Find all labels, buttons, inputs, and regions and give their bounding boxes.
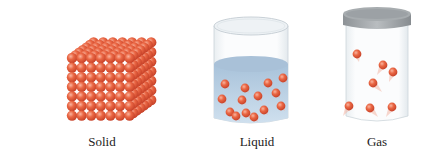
particle xyxy=(86,101,96,111)
particle xyxy=(96,72,106,82)
particle xyxy=(67,72,77,82)
particle xyxy=(67,62,77,72)
particle xyxy=(86,62,96,72)
particle xyxy=(86,91,96,101)
particle xyxy=(242,109,251,118)
particle xyxy=(124,82,134,92)
particle xyxy=(105,91,115,101)
particle xyxy=(232,112,241,121)
particle xyxy=(124,72,134,82)
particle xyxy=(115,82,125,92)
particle xyxy=(115,110,125,120)
particle xyxy=(250,113,259,122)
particle xyxy=(124,110,134,120)
particle xyxy=(96,62,106,72)
particle xyxy=(76,53,86,63)
particle xyxy=(86,82,96,92)
particle xyxy=(272,89,281,98)
particle xyxy=(264,79,273,88)
particle xyxy=(379,61,388,70)
particle xyxy=(388,103,397,112)
particle xyxy=(76,110,86,120)
particle xyxy=(260,106,269,115)
particle xyxy=(221,80,230,89)
particle xyxy=(389,68,398,77)
particle xyxy=(96,101,106,111)
particle xyxy=(105,62,115,72)
particle xyxy=(353,50,362,59)
particle xyxy=(218,95,227,104)
particle xyxy=(105,72,115,82)
particle xyxy=(105,82,115,92)
particle xyxy=(124,62,134,72)
label-liquid: Liquid xyxy=(217,134,297,150)
particle xyxy=(76,82,86,92)
particle xyxy=(96,110,106,120)
particle xyxy=(105,101,115,111)
particle xyxy=(241,84,250,93)
particle xyxy=(115,72,125,82)
label-gas: Gas xyxy=(337,134,417,150)
particle xyxy=(76,62,86,72)
particle xyxy=(105,110,115,120)
particle xyxy=(369,79,378,88)
liquid-beaker xyxy=(214,17,288,123)
gas-jar xyxy=(343,7,411,121)
particle xyxy=(76,91,86,101)
particle xyxy=(96,53,106,63)
particle xyxy=(279,74,288,83)
particle xyxy=(86,53,96,63)
particle xyxy=(96,82,106,92)
particle xyxy=(115,101,125,111)
particle xyxy=(105,53,115,63)
particle xyxy=(67,91,77,101)
particle xyxy=(238,96,247,105)
particle xyxy=(277,102,286,111)
particle xyxy=(115,91,125,101)
solid-cube xyxy=(67,37,157,121)
particle xyxy=(115,62,125,72)
particle xyxy=(124,53,134,63)
particle xyxy=(76,101,86,111)
particle xyxy=(366,104,375,113)
particle xyxy=(67,110,77,120)
particle xyxy=(115,53,125,63)
particle xyxy=(67,53,77,63)
particle xyxy=(254,92,263,101)
particle xyxy=(345,102,354,111)
particle xyxy=(67,82,77,92)
particle xyxy=(124,101,134,111)
particle xyxy=(86,110,96,120)
label-solid: Solid xyxy=(62,134,142,150)
particle xyxy=(76,72,86,82)
particle xyxy=(124,91,134,101)
particle xyxy=(67,101,77,111)
particle xyxy=(96,91,106,101)
particle xyxy=(86,72,96,82)
